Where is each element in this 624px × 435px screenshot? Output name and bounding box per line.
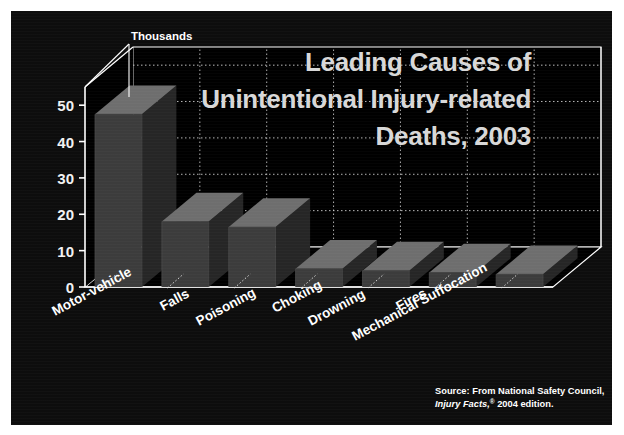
bar-front-face[interactable]: [162, 222, 209, 287]
chart-title-line: Leading Causes of: [305, 47, 532, 77]
bar-front-face[interactable]: [362, 271, 409, 287]
source-note-line-2: Injury Facts,® 2004 edition.: [435, 398, 553, 410]
figure-canvas: 01020304050Motor-vehicleFallsPoisoningCh…: [0, 0, 624, 435]
bar-front-face[interactable]: [496, 274, 543, 287]
y-axis-tick-label: 40: [57, 134, 74, 151]
y-axis-tick-label: 10: [57, 243, 74, 260]
y-axis-tick-label: 30: [57, 170, 74, 187]
y-axis-tick-label: 20: [57, 206, 74, 223]
bar-front-face[interactable]: [229, 227, 276, 287]
source-note-rest: 2004 edition.: [495, 399, 554, 409]
unit-label: Thousands: [131, 30, 192, 42]
chart-title-line: Deaths, 2003: [376, 121, 531, 151]
bar-front-face[interactable]: [95, 114, 142, 287]
chart-title-line: Unintentional Injury-related: [201, 84, 531, 114]
source-note-line-1: Source: From National Safety Council,: [435, 386, 604, 396]
bar-chart-svg: 01020304050Motor-vehicleFallsPoisoningCh…: [11, 11, 612, 425]
y-axis-tick-label: 50: [57, 97, 74, 114]
x-axis-category-label: Poisoning: [193, 285, 258, 329]
chart-panel: 01020304050Motor-vehicleFallsPoisoningCh…: [11, 11, 612, 425]
source-publication-title: Injury Facts,: [435, 399, 490, 409]
x-axis-category-label: Falls: [157, 286, 191, 314]
